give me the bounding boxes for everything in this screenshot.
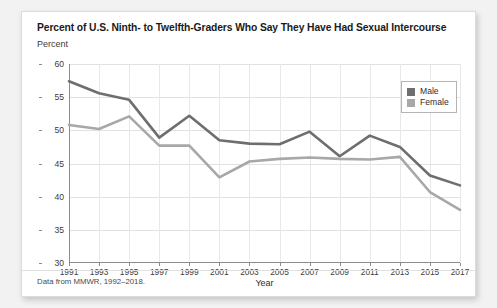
y-tick-label: 60 bbox=[44, 59, 64, 69]
y-tick-mark bbox=[39, 263, 42, 264]
x-tick-mark bbox=[370, 263, 371, 266]
x-tick-mark bbox=[159, 263, 160, 266]
series-line-female bbox=[69, 116, 460, 210]
y-tick-mark bbox=[39, 164, 42, 165]
x-tick-mark bbox=[219, 263, 220, 266]
y-tick-mark bbox=[39, 197, 42, 198]
y-axis-label: Percent bbox=[37, 39, 68, 49]
y-tick-label: 40 bbox=[44, 192, 64, 202]
legend-label-male: Male bbox=[420, 86, 439, 97]
legend-item-female: Female bbox=[407, 97, 449, 108]
y-tick-label: 45 bbox=[44, 159, 64, 169]
x-tick-mark bbox=[129, 263, 130, 266]
x-tick-label: 2013 bbox=[391, 267, 410, 277]
footer-divider bbox=[22, 270, 475, 271]
x-tick-mark bbox=[69, 263, 70, 266]
x-tick-label: 2011 bbox=[361, 267, 379, 277]
y-tick-mark bbox=[39, 130, 42, 131]
x-tick-label: 2017 bbox=[451, 267, 470, 277]
y-tick-label: 55 bbox=[44, 92, 64, 102]
x-tick-mark bbox=[99, 263, 100, 266]
legend-label-female: Female bbox=[420, 97, 449, 108]
x-tick-mark bbox=[310, 263, 311, 266]
x-tick-label: 2005 bbox=[270, 267, 289, 277]
y-tick-mark bbox=[39, 97, 42, 98]
y-tick-label: 50 bbox=[44, 125, 64, 135]
y-axis-tick-labels: 30354045505560 bbox=[42, 64, 64, 263]
x-tick-mark bbox=[249, 263, 250, 266]
y-tick-mark bbox=[39, 64, 42, 65]
x-tick-mark bbox=[189, 263, 190, 266]
x-tick-mark bbox=[400, 263, 401, 266]
gridline-vertical bbox=[460, 64, 461, 263]
x-tick-label: 2001 bbox=[210, 267, 229, 277]
chart-legend: Male Female bbox=[401, 81, 457, 113]
x-tick-label: 2003 bbox=[240, 267, 259, 277]
y-tick-label: 35 bbox=[44, 225, 64, 235]
x-tick-label: 1997 bbox=[150, 267, 169, 277]
x-tick-mark bbox=[280, 263, 281, 266]
chart-title: Percent of U.S. Ninth- to Twelfth-Grader… bbox=[37, 22, 446, 33]
x-tick-label: 1993 bbox=[90, 267, 109, 277]
x-tick-label: 1995 bbox=[120, 267, 139, 277]
legend-swatch-male bbox=[407, 88, 415, 96]
x-tick-label: 2015 bbox=[421, 267, 440, 277]
x-tick-mark bbox=[430, 263, 431, 266]
chart-card: Percent of U.S. Ninth- to Twelfth-Grader… bbox=[21, 11, 476, 297]
x-tick-label: 2007 bbox=[300, 267, 319, 277]
source-note: Data from MMWR, 1992–2018. bbox=[37, 277, 145, 286]
x-tick-label: 1999 bbox=[180, 267, 199, 277]
y-tick-mark bbox=[39, 230, 42, 231]
legend-swatch-female bbox=[407, 99, 415, 107]
x-tick-label: 1991 bbox=[60, 267, 79, 277]
x-tick-mark bbox=[460, 263, 461, 266]
legend-item-male: Male bbox=[407, 86, 449, 97]
x-tick-mark bbox=[340, 263, 341, 266]
x-tick-label: 2009 bbox=[330, 267, 349, 277]
